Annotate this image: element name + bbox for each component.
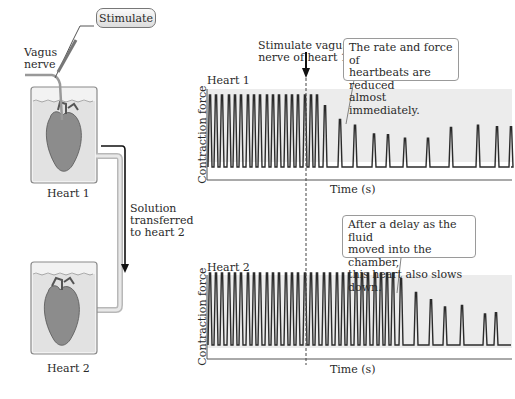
heart1-y-axis-label: Contraction force (196, 85, 209, 185)
stimulate-marker-label: Stimulate vagus nerve of heart 1 (258, 40, 348, 64)
heart1-label: Heart 1 (47, 188, 90, 200)
heart2-x-axis-label: Time (s) (330, 364, 376, 376)
heart1-chart-title: Heart 1 (207, 75, 250, 87)
heart2-chart-title: Heart 2 (207, 262, 250, 274)
stimulate-button[interactable]: Stimulate (96, 8, 156, 28)
heart1-beaker (31, 87, 97, 183)
heart1-x-axis-label: Time (s) (330, 184, 376, 196)
callout-heart1: The rate and force of heartbeats are red… (343, 38, 459, 81)
heart2-y-axis-label: Contraction force (196, 267, 209, 367)
heart2-label: Heart 2 (47, 363, 90, 375)
callout-heart2: After a delay as the fluid moved into th… (342, 215, 476, 258)
vagus-nerve-experiment-diagram: Stimulate Vagus nerve Heart 1 Heart 2 So… (0, 0, 515, 399)
heart2-beaker (31, 262, 97, 354)
transfer-label: Solution transferred to heart 2 (130, 203, 194, 239)
vagus-nerve-label: Vagus nerve (24, 47, 57, 71)
